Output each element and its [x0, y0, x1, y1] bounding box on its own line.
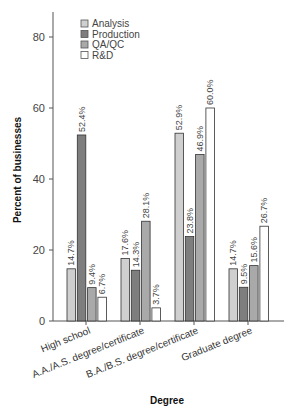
bar — [260, 226, 269, 321]
legend-swatch — [81, 31, 88, 38]
bar-value-label: 26.7% — [259, 198, 269, 224]
y-tick-label: 0 — [39, 315, 45, 327]
legend-label: QA/QC — [92, 39, 124, 50]
legend: AnalysisProductionQA/QCR&D — [81, 18, 140, 61]
bar — [229, 269, 238, 321]
bar-value-label: 17.6% — [120, 230, 130, 256]
y-tick-label: 40 — [33, 173, 45, 185]
bar — [250, 266, 259, 321]
axes: 020406080High schoolA.A./A.S. degree/cer… — [30, 12, 284, 380]
bar — [88, 288, 97, 321]
bar-value-label: 23.8% — [185, 208, 195, 234]
legend-label: Analysis — [92, 18, 129, 29]
bar — [185, 237, 194, 321]
bar — [98, 297, 107, 321]
bar-value-label: 9.5% — [239, 264, 249, 285]
bar-value-label: 46.9% — [195, 126, 205, 152]
bar-value-label: 28.1% — [141, 193, 151, 219]
bar — [131, 270, 140, 321]
bar — [67, 269, 76, 321]
grouped-bar-chart: 020406080High schoolA.A./A.S. degree/cer… — [0, 0, 303, 418]
bar-value-label: 60.0% — [205, 79, 215, 105]
legend-swatch — [81, 41, 88, 48]
bar — [196, 155, 205, 321]
bar-value-label: 15.6% — [249, 237, 259, 263]
legend-label: Production — [92, 29, 140, 40]
y-tick-label: 80 — [33, 31, 45, 43]
x-axis-title: Degree — [150, 395, 184, 406]
bar — [121, 259, 130, 321]
bar — [152, 308, 161, 321]
legend-swatch — [81, 52, 88, 59]
legend-label: R&D — [92, 50, 113, 61]
bar — [239, 287, 248, 321]
bar-value-label: 6.7% — [97, 274, 107, 295]
bar-value-label: 14.3% — [131, 242, 141, 268]
bar-value-label: 9.4% — [87, 264, 97, 285]
bars: 14.7%52.4%9.4%6.7%17.6%14.3%28.1%3.7%52.… — [66, 79, 269, 321]
y-tick-label: 20 — [33, 244, 45, 256]
bar-value-label: 3.7% — [151, 284, 161, 305]
bar — [206, 108, 215, 321]
legend-swatch — [81, 20, 88, 27]
y-axis-title: Percent of businesses — [12, 116, 23, 223]
bar — [142, 221, 151, 321]
bar-value-label: 52.9% — [174, 105, 184, 131]
bar-value-label: 52.4% — [77, 106, 87, 132]
bar — [77, 135, 86, 321]
bar-value-label: 14.7% — [66, 240, 76, 266]
y-tick-label: 60 — [33, 102, 45, 114]
bar — [175, 133, 184, 321]
bar-value-label: 14.7% — [228, 240, 238, 266]
